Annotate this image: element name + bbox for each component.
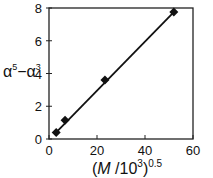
data-point-diamond <box>100 76 109 85</box>
y-tick-label: 0 <box>35 132 42 147</box>
chart: 020406002468 α5−α3 (M /103)0.5 <box>0 0 213 178</box>
x-tick-label: 40 <box>138 143 152 158</box>
x-tick-label: 60 <box>186 143 200 158</box>
x-tick-label: 20 <box>90 143 104 158</box>
x-tick-label: 0 <box>45 143 52 158</box>
fit-line <box>56 12 174 132</box>
x-axis-label: (M /103)0.5 <box>92 158 163 177</box>
y-tick-label: 2 <box>35 99 42 114</box>
y-tick-label: 6 <box>35 34 42 49</box>
y-axis-label: α5−α3 <box>3 62 41 80</box>
y-tick-label: 8 <box>35 1 42 16</box>
data-point-diamond <box>61 116 70 125</box>
plot-frame <box>49 8 193 139</box>
axis-ticks: 020406002468 <box>35 1 200 158</box>
